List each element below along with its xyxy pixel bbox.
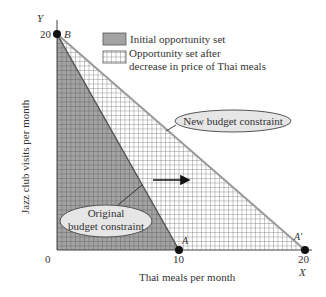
origin-label: 0 — [45, 253, 51, 265]
new-budget-callout-text: New budget constraint — [183, 115, 283, 127]
x-axis-letter: X — [298, 266, 307, 278]
y-axis-letter: Y — [37, 12, 45, 24]
original-budget-callout-line1: Original — [88, 207, 125, 219]
point-a-prime-label: A' — [293, 231, 303, 242]
original-budget-callout-line2: budget constraint — [68, 220, 144, 232]
x-axis-title: Thai meals per month — [139, 271, 236, 283]
point-b-label: B — [64, 28, 71, 40]
budget-constraint-diagram: Y X 20 0 10 20 Thai meals per month Jazz… — [0, 0, 326, 297]
legend-label-new-line1: Opportunity set after — [129, 47, 221, 59]
new-callout-leader — [166, 125, 176, 131]
point-a-dot — [175, 246, 183, 254]
point-a-label: A — [181, 235, 189, 246]
legend-label-initial: Initial opportunity set — [130, 33, 225, 45]
point-b-dot — [53, 30, 61, 38]
y-axis-title: Jazz club visits per month — [19, 99, 31, 214]
y-tick-20: 20 — [40, 28, 52, 40]
point-a-prime-dot — [301, 246, 309, 254]
legend-swatch-new — [103, 51, 126, 63]
legend-label-new-line2: decrease in price of Thai meals — [129, 60, 266, 72]
x-tick-20: 20 — [298, 253, 310, 265]
legend-swatch-initial — [103, 33, 126, 45]
x-tick-10: 10 — [173, 253, 185, 265]
